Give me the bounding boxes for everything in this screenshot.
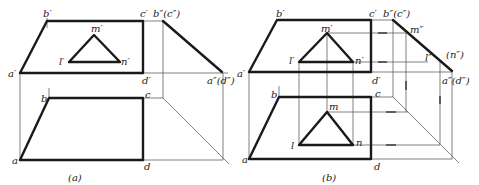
figure-b: b′ c′ b″(c″) m′ m″ l′ n′ l″ (n″) a′ d′ a… <box>237 8 470 183</box>
label-d: d <box>144 161 150 172</box>
label-a: a <box>242 154 248 165</box>
label-n-prime: n′ <box>355 55 364 66</box>
label-n-dprime: (n″) <box>446 49 464 60</box>
top-view-outline <box>20 98 143 160</box>
label-d-prime: d′ <box>142 75 151 86</box>
top-view-triangle <box>299 112 353 145</box>
label-c: c <box>145 89 151 100</box>
label-a-prime: a′ <box>237 68 246 79</box>
mitre-line <box>393 97 459 163</box>
mitre-line <box>163 98 229 164</box>
label-n: n <box>356 137 362 148</box>
label-a-dprime-d-dprime: a″(d″) <box>442 75 470 86</box>
label-l-prime: l′ <box>59 56 65 67</box>
label-a-dprime-d-dprime: a″(d″) <box>207 75 235 86</box>
label-c: c <box>375 88 381 99</box>
front-view-triangle <box>69 35 120 62</box>
label-m-prime: m′ <box>321 23 333 34</box>
label-m-dprime: m″ <box>410 24 423 35</box>
label-m-prime: m′ <box>91 23 103 34</box>
caption-a: (a) <box>68 172 82 183</box>
label-b-dprime-c-dprime: b″(c″) <box>383 8 410 19</box>
label-l: l <box>291 140 294 151</box>
label-l-dprime: l″ <box>425 52 432 63</box>
label-m: m <box>329 101 338 112</box>
label-d: d <box>374 161 380 172</box>
label-b: b <box>41 93 47 104</box>
label-a: a <box>12 155 18 166</box>
label-b-dprime-c-dprime: b″(c″) <box>153 8 180 19</box>
figure-a: b′ c′ b″(c″) m′ l′ n′ a′ d′ a″(d″) b c a… <box>8 8 235 183</box>
label-l-prime: l′ <box>289 55 295 66</box>
label-n-prime: n′ <box>121 56 130 67</box>
label-c-prime: c′ <box>369 8 378 19</box>
label-b-prime: b′ <box>43 8 52 19</box>
label-a-prime: a′ <box>8 68 17 79</box>
label-b: b <box>271 89 277 100</box>
front-view-triangle <box>299 33 353 62</box>
projection-diagram: b′ c′ b″(c″) m′ l′ n′ a′ d′ a″(d″) b c a… <box>0 0 479 185</box>
caption-b: (b) <box>322 172 336 183</box>
label-b-prime: b′ <box>276 8 285 19</box>
label-d-prime: d′ <box>372 75 381 86</box>
label-c-prime: c′ <box>140 8 149 19</box>
side-view-edge <box>163 21 222 72</box>
